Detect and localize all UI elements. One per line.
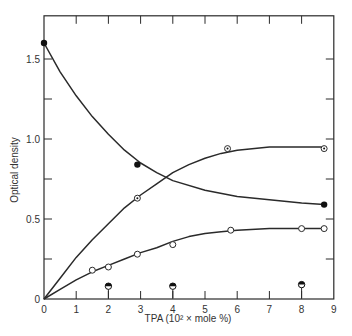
data-markers	[41, 40, 328, 298]
dotted-circle-center	[227, 148, 229, 150]
dotted-circle-center	[323, 148, 325, 150]
filled-circle-marker	[321, 201, 327, 207]
open-circle-marker	[89, 267, 95, 273]
filled-circle-marker	[134, 161, 140, 167]
x-tick-label: 7	[267, 304, 273, 315]
y-tick-label: 1.5	[26, 54, 40, 65]
open-circle-marker	[170, 242, 176, 248]
y-tick-label: 1.0	[26, 134, 40, 145]
fitted-curves	[44, 43, 324, 299]
open-circle-marker	[105, 264, 111, 270]
x-axis-label: TPA (10² × mole %)	[145, 313, 232, 324]
open-circle-marker	[134, 251, 140, 257]
x-tick-label: 9	[331, 304, 337, 315]
open-circle-marker	[321, 226, 327, 232]
y-tick-label: 0	[34, 294, 40, 305]
filled-circle-marker	[41, 40, 47, 46]
x-tick-label: 2	[106, 304, 112, 315]
y-tick-label: 0.5	[26, 214, 40, 225]
open-circle-marker	[228, 227, 234, 233]
x-tick-label: 8	[299, 304, 305, 315]
x-tick-label: 0	[41, 304, 47, 315]
y-axis-label: Optical density	[9, 137, 20, 203]
curve-line	[44, 43, 324, 205]
dotted-circle-center	[136, 197, 138, 199]
x-tick-label: 3	[138, 304, 144, 315]
curve-line	[44, 147, 324, 299]
x-tick-label: 1	[73, 304, 79, 315]
plot-frame	[44, 16, 334, 299]
open-circle-marker	[299, 226, 305, 232]
curve-line	[44, 229, 324, 299]
x-tick-label: 6	[234, 304, 240, 315]
axis-ticks: 012345678900.51.01.5	[26, 16, 337, 315]
optical-density-chart: 012345678900.51.01.5 TPA (10² × mole %) …	[0, 0, 352, 336]
plot-border	[44, 16, 334, 299]
